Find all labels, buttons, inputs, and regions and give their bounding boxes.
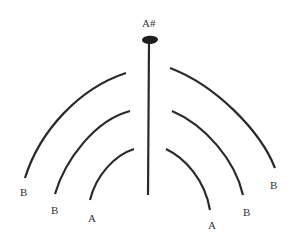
top-label: A# <box>142 18 155 29</box>
left-inner-label: A <box>88 213 96 224</box>
right-middle-label: B <box>243 207 250 218</box>
right-outer-label: B <box>270 180 277 191</box>
diagram-canvas: A# B B A B B A <box>0 0 302 244</box>
right-middle-arc <box>172 111 243 195</box>
top-blob <box>142 36 158 44</box>
left-middle-label: B <box>51 205 58 216</box>
right-inner-arc <box>166 149 210 210</box>
left-middle-arc <box>55 111 130 194</box>
central-stem <box>148 42 149 195</box>
arcs-drawing <box>0 0 302 244</box>
right-inner-label: A <box>208 220 216 231</box>
left-inner-arc <box>90 149 134 200</box>
left-outer-label: B <box>20 187 27 198</box>
